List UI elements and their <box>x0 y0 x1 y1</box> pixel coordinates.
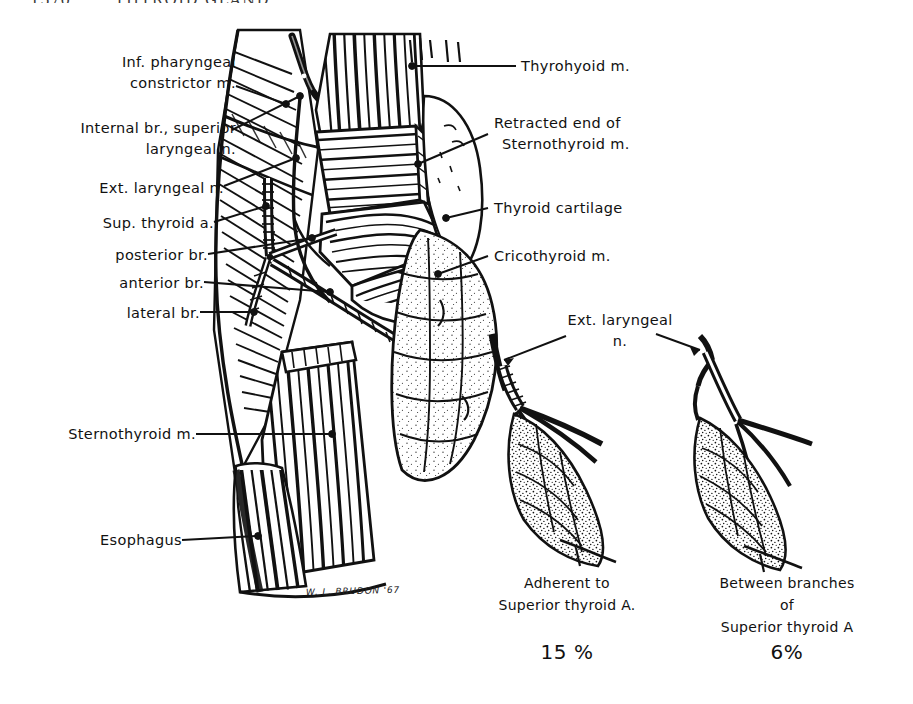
plate-page: 1570 THYROID GLAND <box>0 0 913 704</box>
label-line: Cricothyroid m. <box>494 246 611 267</box>
label-line: constrictor m. <box>30 73 236 94</box>
inset-between-branches-illustration <box>656 334 812 572</box>
caption-line: of <box>668 594 906 616</box>
label-line: posterior br. <box>20 245 208 266</box>
label-cricothyroid-m: Cricothyroid m. <box>494 246 611 267</box>
percent-inset-adherent: 15 % <box>452 640 682 664</box>
label-thyroid-cartilage: Thyroid cartilage <box>494 198 623 219</box>
label-line: n. <box>540 331 700 352</box>
label-line: Sup. thyroid a. <box>20 213 214 234</box>
label-internal-br-superior-laryngeal-n: Internal br., superior laryngeal n. <box>10 118 236 160</box>
label-line: laryngeal n. <box>10 139 236 160</box>
caption-inset-between-branches: Between branches of Superior thyroid A <box>668 572 906 638</box>
label-line: Esophagus <box>20 530 182 551</box>
label-line: Ext. laryngeal n. <box>20 178 224 199</box>
label-line: Retracted end of <box>494 113 630 134</box>
label-line: Ext. laryngeal <box>540 310 700 331</box>
thyroid-gland-lobe-shape <box>392 230 497 480</box>
caption-line: Superior thyroid A <box>668 616 906 638</box>
label-ext-laryngeal-n: Ext. laryngeal n. <box>20 178 224 199</box>
label-lateral-br: lateral br. <box>20 303 200 324</box>
label-sternothyroid-m: Sternothyroid m. <box>10 424 196 445</box>
label-posterior-br: posterior br. <box>20 245 208 266</box>
label-line: lateral br. <box>20 303 200 324</box>
label-line: Thyroid cartilage <box>494 198 623 219</box>
retracted-sternothyroid-shape <box>316 126 428 214</box>
label-inf-pharyngeal-constrictor: Inf. pharyngeal constrictor m. <box>30 52 236 94</box>
label-sup-thyroid-a: Sup. thyroid a. <box>20 213 214 234</box>
caption-line: Between branches <box>668 572 906 594</box>
inset-adherent-illustration <box>492 334 616 566</box>
label-line: Thyrohyoid m. <box>521 56 630 77</box>
caption-line: Superior thyroid A. <box>452 594 682 616</box>
label-retracted-end-sternothyroid: Retracted end of Sternothyroid m. <box>494 113 630 155</box>
caption-inset-adherent: Adherent to Superior thyroid A. <box>452 572 682 616</box>
label-line: anterior br. <box>20 273 204 294</box>
label-ext-laryngeal-n-inset: Ext. laryngeal n. <box>540 310 700 352</box>
caption-line: Adherent to <box>452 572 682 594</box>
percent-inset-between-branches: 6% <box>668 640 906 664</box>
label-line: Internal br., superior <box>10 118 236 139</box>
label-anterior-br: anterior br. <box>20 273 204 294</box>
label-line: Sternothyroid m. <box>10 424 196 445</box>
label-thyrohyoid-m: Thyrohyoid m. <box>521 56 630 77</box>
label-line: Inf. pharyngeal <box>30 52 236 73</box>
label-line: Sternothyroid m. <box>494 134 630 155</box>
label-esophagus: Esophagus <box>20 530 182 551</box>
